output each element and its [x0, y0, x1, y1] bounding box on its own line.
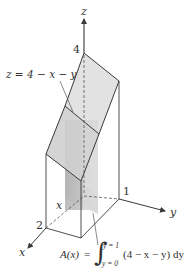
y-tick-label: 1 — [123, 186, 130, 197]
y-axis-label: y — [170, 207, 176, 218]
solid-diagram — [0, 0, 187, 277]
formula-upper-limit: y = 1 — [103, 241, 119, 250]
x-tick-label: 2 — [36, 220, 43, 231]
slice-x-label: x — [56, 200, 62, 211]
formula-integrand: (4 − x − y) dy — [123, 248, 184, 260]
formula-lhs: A(x) — [60, 248, 79, 260]
y-axis — [119, 199, 165, 211]
formula-lower-limit: y = 0 — [102, 259, 118, 268]
z-axis-label: z — [81, 6, 87, 17]
surface-equation-label: z = 4 − x − y — [6, 69, 77, 80]
formula-equals: = — [84, 248, 90, 260]
x-axis-label: x — [19, 247, 25, 258]
base-front-edge — [46, 228, 81, 238]
z-tick-label: 4 — [73, 44, 80, 55]
